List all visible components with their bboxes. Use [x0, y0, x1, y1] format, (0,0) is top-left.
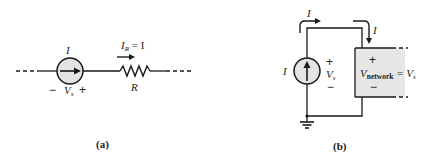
circuit-a: I IR = I − Vs + R (a) [16, 39, 192, 151]
top-current-arrow-icon [300, 21, 316, 33]
network-minus: − [370, 80, 377, 94]
source-voltage-minus: − [327, 80, 334, 94]
network-plus: + [369, 53, 376, 67]
source-current-label: I [65, 44, 71, 56]
source-current-label: I [282, 65, 288, 77]
circuit-b: I I I + Vs − + Vnetwork = Vs − (b) [282, 7, 416, 153]
source-voltage-plus: + [79, 83, 86, 97]
caption-a: (a) [96, 138, 109, 151]
current-arrow-head-icon [129, 54, 135, 60]
caption-b: (b) [333, 140, 347, 153]
down-current-arrow-head-icon [366, 38, 372, 44]
resistor-label: R [130, 81, 138, 93]
top-wire [307, 28, 362, 58]
resistor-current-label: IR = I [120, 39, 145, 53]
source-voltage-label: Vs [64, 84, 74, 98]
top-current-arrow-head-icon [315, 18, 321, 24]
ground-icon [300, 116, 314, 128]
circuit-figure: I IR = I − Vs + R (a) [0, 0, 433, 162]
bottom-wire [307, 84, 362, 116]
resistor-icon [120, 66, 150, 76]
top-current-label: I [306, 7, 312, 19]
down-current-label: I [372, 24, 378, 36]
down-current-arrow-icon [353, 21, 369, 38]
source-voltage-plus: + [326, 55, 333, 69]
source-voltage-minus: − [49, 83, 56, 97]
